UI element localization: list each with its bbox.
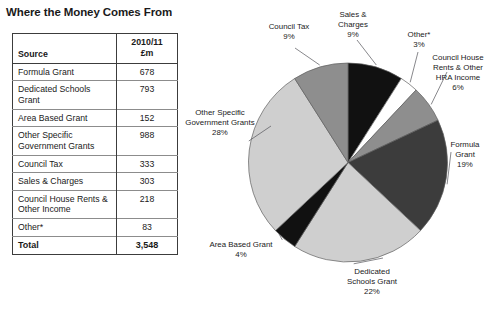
cell-source: Other Specific Government Grants <box>13 127 117 155</box>
table-header: Source 2010/11 £m <box>13 34 178 64</box>
cell-source: Dedicated Schools Grant <box>13 81 117 109</box>
cell-total-amount: 3,548 <box>117 236 178 254</box>
pie-slice-label: Council House Rents & Other HRA Income 6… <box>415 53 501 93</box>
cell-amount: 333 <box>117 155 178 173</box>
column-header-amount-year: 2010/11 <box>122 37 172 48</box>
cell-amount: 988 <box>117 127 178 155</box>
cell-source: Council House Rents & Other Income <box>13 190 117 218</box>
cell-source: Formula Grant <box>13 63 117 81</box>
cell-amount: 793 <box>117 81 178 109</box>
pie-chart: Sales & Charges 9%Other* 3%Council House… <box>175 0 502 315</box>
cell-source: Area Based Grant <box>13 109 117 127</box>
table-row: Sales & Charges303 <box>13 173 178 191</box>
table-row: Council Tax333 <box>13 155 178 173</box>
table-panel: Where the Money Comes From Source 2010/1… <box>0 0 175 315</box>
figure-root: Where the Money Comes From Source 2010/1… <box>0 0 502 315</box>
table-row: Area Based Grant152 <box>13 109 178 127</box>
cell-source: Sales & Charges <box>13 173 117 191</box>
pie-slice-label: Formula Grant 19% <box>433 140 497 170</box>
cell-amount: 218 <box>117 190 178 218</box>
money-sources-table: Source 2010/11 £m Formula Grant678Dedica… <box>12 33 178 255</box>
column-header-amount-unit: £m <box>122 48 172 59</box>
table-row: Other*83 <box>13 218 178 236</box>
cell-source: Other* <box>13 218 117 236</box>
pie-slice-label: Council Tax 9% <box>258 22 320 42</box>
cell-total-label: Total <box>13 236 117 254</box>
pie-slice-label: Other* 3% <box>397 30 441 50</box>
pie-slice-label: Area Based Grant 4% <box>192 240 290 260</box>
table-header-row: Source 2010/11 £m <box>13 34 178 64</box>
table-total-row: Total3,548 <box>13 236 178 254</box>
pie-slice-label: Sales & Charges 9% <box>323 10 383 40</box>
pie-slice-label: Other Specific Government Grants 28% <box>171 108 269 138</box>
table-body: Formula Grant678Dedicated Schools Grant7… <box>13 63 178 254</box>
pie-slice-label: Dedicated Schools Grant 22% <box>330 267 414 297</box>
table-row: Formula Grant678 <box>13 63 178 81</box>
cell-amount: 678 <box>117 63 178 81</box>
cell-amount: 152 <box>117 109 178 127</box>
table-row: Council House Rents & Other Income218 <box>13 190 178 218</box>
table-row: Other Specific Government Grants988 <box>13 127 178 155</box>
leader-line <box>295 48 320 65</box>
cell-amount: 303 <box>117 173 178 191</box>
table-row: Dedicated Schools Grant793 <box>13 81 178 109</box>
page-title: Where the Money Comes From <box>6 6 174 18</box>
cell-amount: 83 <box>117 218 178 236</box>
column-header-amount: 2010/11 £m <box>117 34 178 64</box>
cell-source: Council Tax <box>13 155 117 173</box>
leader-line <box>357 40 376 65</box>
column-header-source: Source <box>13 34 117 64</box>
